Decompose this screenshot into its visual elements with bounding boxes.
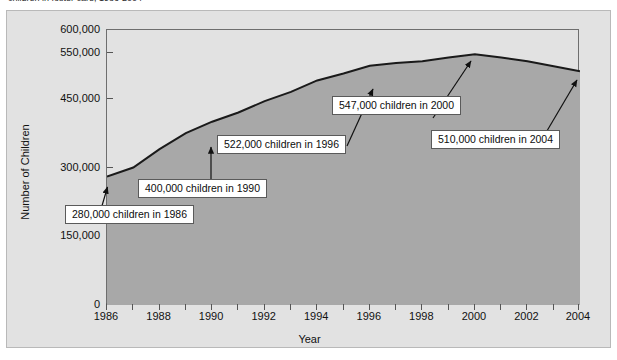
x-tick-label: 1988	[134, 310, 184, 322]
chart-figure-panel: Number of Children 600,000 550,000 450,0…	[6, 10, 611, 348]
annotation-callout-2004: 510,000 children in 2004	[431, 130, 560, 149]
x-axis-tick-labels: 1986 1988 1990 1992 1994 1996 1998 2000 …	[106, 310, 579, 326]
annotation-callout-2000: 547,000 children in 2000	[332, 96, 461, 115]
figure-caption-strip: children in foster care, 1986-2004	[0, 0, 617, 9]
area-chart-svg	[107, 30, 580, 305]
x-axis-title: Year	[7, 333, 612, 345]
x-tick-label: 1990	[186, 310, 236, 322]
x-tick-label: 2002	[501, 310, 551, 322]
x-tick-label: 1998	[396, 310, 446, 322]
y-tick-label: 600,000	[10, 23, 100, 35]
y-axis-tick-labels: 600,000 550,000 450,000 300,000 150,000 …	[7, 29, 100, 304]
y-tick-label: 150,000	[10, 229, 100, 241]
annotation-callout-1996: 522,000 children in 1996	[217, 135, 346, 154]
x-tick-label: 2004	[553, 310, 603, 322]
x-tick-label: 1986	[81, 310, 131, 322]
x-tick-label: 1996	[344, 310, 394, 322]
x-tick-label: 2000	[449, 310, 499, 322]
x-tick-label: 1994	[291, 310, 341, 322]
x-tick-label: 1992	[239, 310, 289, 322]
y-tick-label: 550,000	[10, 46, 100, 58]
annotation-callout-1990: 400,000 children in 1990	[138, 179, 267, 198]
figure-caption: children in foster care, 1986-2004	[8, 0, 142, 3]
annotation-callout-1986: 280,000 children in 1986	[65, 205, 194, 224]
y-tick-label: 450,000	[10, 92, 100, 104]
y-tick-label: 300,000	[10, 161, 100, 173]
y-tick-label: 0	[10, 298, 100, 310]
plot-area	[106, 29, 579, 304]
